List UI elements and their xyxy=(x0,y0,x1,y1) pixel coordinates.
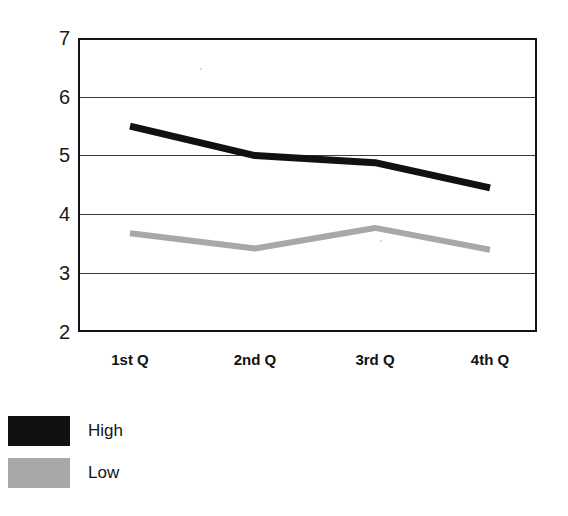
legend-label-low: Low xyxy=(88,462,119,484)
y-tick-2: 2 xyxy=(42,322,70,342)
legend-label-high: High xyxy=(88,420,123,442)
series-line-low xyxy=(130,228,490,250)
x-axis-labels: 1st Q 2nd Q 3rd Q 4th Q xyxy=(78,351,537,375)
y-tick-5: 5 xyxy=(42,145,70,165)
series-overlay xyxy=(78,38,537,332)
series-line-high xyxy=(130,126,490,188)
line-chart-figure: 7 6 5 4 3 2 1st Q 2nd Q 3rd Q 4th Q High… xyxy=(0,0,568,516)
y-tick-3: 3 xyxy=(42,263,70,283)
chart-legend: High Low xyxy=(8,414,248,498)
legend-item-high: High xyxy=(8,414,248,456)
legend-item-low: Low xyxy=(8,456,248,498)
y-tick-7: 7 xyxy=(42,28,70,48)
x-tick-1st-q: 1st Q xyxy=(111,351,149,369)
x-tick-3rd-q: 3rd Q xyxy=(355,351,394,369)
legend-swatch-high xyxy=(8,416,70,446)
x-tick-4th-q: 4th Q xyxy=(471,351,509,369)
y-tick-6: 6 xyxy=(42,87,70,107)
legend-swatch-low xyxy=(8,458,70,488)
x-tick-2nd-q: 2nd Q xyxy=(234,351,277,369)
y-tick-4: 4 xyxy=(42,204,70,224)
